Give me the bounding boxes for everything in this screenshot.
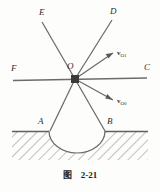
label-point-E: E: [39, 8, 45, 17]
label-point-F: F: [11, 64, 17, 73]
ray-OA: [50, 79, 75, 131]
vector-arrow-vO1: [75, 53, 113, 79]
vector-symbol-0: v: [117, 97, 121, 105]
label-point-A: A: [38, 117, 44, 126]
vector-subscript-1: O1: [121, 53, 127, 58]
caption-number: 2-21: [81, 170, 98, 180]
figure-caption: 图2-21: [0, 168, 160, 181]
vector-subscript-0: O0: [121, 101, 127, 106]
caption-label: 图: [63, 170, 72, 180]
ray-OD: [75, 20, 112, 79]
line-FC: [13, 78, 147, 81]
label-point-B: B: [107, 117, 113, 126]
vector-symbol-1: v: [117, 49, 121, 57]
figure-diagram: [0, 0, 160, 192]
node-point-O: [71, 75, 79, 83]
label-vector-vO1: vO1: [117, 50, 127, 57]
label-point-O: O: [67, 62, 74, 71]
label-vector-vO0: vO0: [117, 98, 127, 105]
label-point-D: D: [110, 7, 117, 16]
ground-hatching: [12, 131, 148, 161]
label-point-C: C: [144, 63, 150, 72]
